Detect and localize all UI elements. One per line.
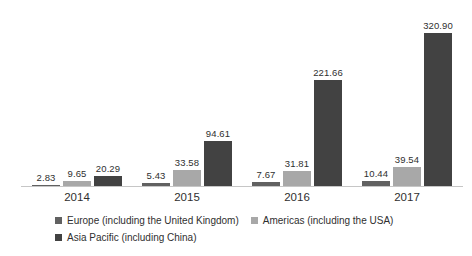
bar-americas-2015: 33.58 <box>173 170 201 186</box>
value-label: 31.81 <box>285 158 309 169</box>
value-label: 33.58 <box>175 157 199 168</box>
legend-label: Americas (including the USA) <box>263 215 394 226</box>
bar-europe-2017: 10.44 <box>362 181 390 186</box>
bar-europe-2016: 7.67 <box>252 182 280 186</box>
value-label: 2.83 <box>37 172 56 183</box>
value-label: 9.65 <box>68 168 87 179</box>
legend-label: Asia Pacific (including China) <box>67 232 197 243</box>
category-label-2014: 2014 <box>22 191 132 203</box>
category-label-2015: 2015 <box>132 191 242 203</box>
value-label: 320.90 <box>423 20 453 31</box>
bar-group-2015: 5.4333.5894.61 <box>132 0 242 186</box>
legend-swatch-icon <box>251 217 258 224</box>
bar-americas-2014: 9.65 <box>63 181 91 186</box>
bar-chart: 2.839.6520.295.4333.5894.617.6731.81221.… <box>0 0 472 256</box>
value-label: 221.66 <box>313 67 343 78</box>
bar-group-2016: 7.6731.81221.66 <box>242 0 352 186</box>
value-label: 20.29 <box>96 163 120 174</box>
legend-item-asia: Asia Pacific (including China) <box>55 232 197 243</box>
category-label-2016: 2016 <box>242 191 352 203</box>
legend-item-americas: Americas (including the USA) <box>251 215 394 226</box>
legend-label: Europe (including the United Kingdom) <box>67 215 239 226</box>
value-label: 10.44 <box>364 168 388 179</box>
bar-europe-2014: 2.83 <box>32 185 60 186</box>
value-label: 94.61 <box>206 128 230 139</box>
legend-swatch-icon <box>55 217 62 224</box>
category-label-2017: 2017 <box>352 191 462 203</box>
value-label: 7.67 <box>257 169 276 180</box>
bar-europe-2015: 5.43 <box>142 183 170 186</box>
bar-americas-2016: 31.81 <box>283 171 311 186</box>
bar-groups: 2.839.6520.295.4333.5894.617.6731.81221.… <box>22 0 462 186</box>
category-axis: 2014201520162017 <box>22 191 462 203</box>
bar-asia-2017: 320.90 <box>424 33 452 186</box>
legend-swatch-icon <box>55 234 62 241</box>
plot-area: 2.839.6520.295.4333.5894.617.6731.81221.… <box>21 0 463 187</box>
value-label: 5.43 <box>147 170 166 181</box>
bar-asia-2016: 221.66 <box>314 80 342 186</box>
bar-group-2014: 2.839.6520.29 <box>22 0 132 186</box>
legend: Europe (including the United Kingdom)Ame… <box>55 215 453 243</box>
bar-asia-2014: 20.29 <box>94 176 122 186</box>
legend-item-europe: Europe (including the United Kingdom) <box>55 215 239 226</box>
bar-americas-2017: 39.54 <box>393 167 421 186</box>
bar-group-2017: 10.4439.54320.90 <box>352 0 462 186</box>
value-label: 39.54 <box>395 154 419 165</box>
bar-asia-2015: 94.61 <box>204 141 232 186</box>
